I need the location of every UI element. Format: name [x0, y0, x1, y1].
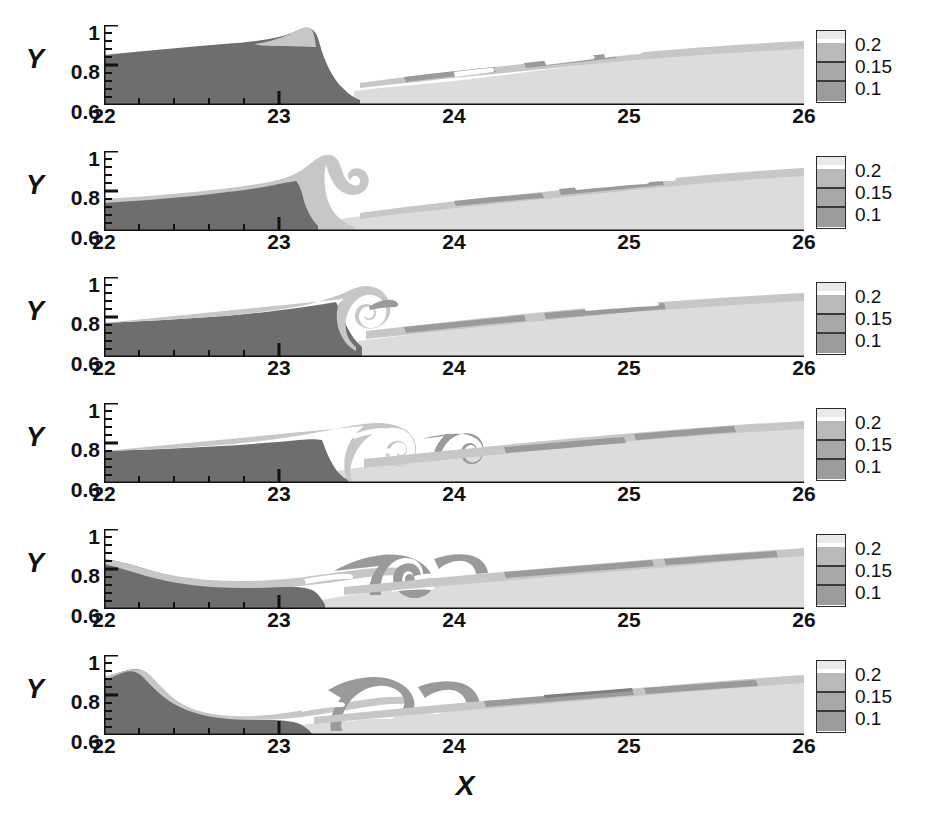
colorbar-label: 0.15 — [855, 309, 892, 328]
x-tick-label: 23 — [267, 105, 290, 126]
colorbar-label: 0.1 — [855, 709, 881, 728]
colorbar-label: 0.15 — [855, 183, 892, 202]
x-tick-label: 26 — [792, 483, 815, 504]
colorbar-labels: 0.2 0.15 0.1 — [855, 30, 925, 105]
colorbar-labels: 0.2 0.15 0.1 — [855, 534, 925, 609]
y-tick-label: 1 — [88, 526, 100, 547]
plot-area — [104, 403, 804, 483]
colorbar-label: 0.2 — [855, 539, 881, 558]
y-axis-title: Y — [26, 172, 44, 199]
panel-2: Y 1 0.8 0.6 — [0, 126, 930, 251]
y-tick-label: 1 — [88, 274, 100, 295]
y-axis-title: Y — [26, 298, 44, 325]
colorbar-label: 0.2 — [855, 287, 881, 306]
colorbar-label: 0.2 — [855, 35, 881, 54]
colorbar — [816, 30, 846, 103]
x-tick-label: 23 — [267, 609, 290, 630]
colorbar-label: 0.1 — [855, 79, 881, 98]
flow-field-3 — [104, 277, 804, 357]
x-tick-label: 25 — [617, 609, 640, 630]
y-tick-label: 1 — [88, 148, 100, 169]
x-tick-label: 23 — [267, 483, 290, 504]
plot-area — [104, 151, 804, 231]
x-tick-label: 26 — [792, 609, 815, 630]
colorbar-labels: 0.2 0.15 0.1 — [855, 156, 925, 231]
x-tick-label: 24 — [442, 483, 465, 504]
flow-field-6 — [104, 655, 804, 735]
x-tick-label: 22 — [92, 483, 115, 504]
y-axis-title: Y — [26, 550, 44, 577]
x-tick-label: 24 — [442, 609, 465, 630]
colorbar — [816, 156, 846, 229]
x-tick-labels: 22 23 24 25 26 — [0, 735, 930, 763]
x-tick-label: 25 — [617, 105, 640, 126]
y-tick-label: 0.8 — [71, 313, 100, 334]
colorbar-label: 0.1 — [855, 583, 881, 602]
colorbar-label: 0.15 — [855, 435, 892, 454]
x-tick-label: 25 — [617, 357, 640, 378]
x-tick-label: 22 — [92, 231, 115, 252]
plot-area — [104, 25, 804, 105]
x-tick-label: 25 — [617, 483, 640, 504]
y-tick-label: 1 — [88, 652, 100, 673]
x-tick-label: 22 — [92, 357, 115, 378]
colorbar-labels: 0.2 0.15 0.1 — [855, 660, 925, 735]
x-tick-label: 26 — [792, 105, 815, 126]
y-axis-title: Y — [26, 424, 44, 451]
panel-5: Y 1 0.8 0.6 — [0, 504, 930, 629]
x-tick-label: 24 — [442, 231, 465, 252]
colorbar-labels: 0.2 0.15 0.1 — [855, 282, 925, 357]
x-tick-label: 24 — [442, 357, 465, 378]
plot-area — [104, 277, 804, 357]
colorbar-label: 0.2 — [855, 413, 881, 432]
figure-wave-breaking-sequence: Y 1 0.8 0.6 — [0, 0, 930, 819]
x-tick-label: 22 — [92, 609, 115, 630]
x-tick-label: 24 — [442, 105, 465, 126]
colorbar-label: 0.2 — [855, 161, 881, 180]
flow-field-2 — [104, 151, 804, 231]
x-tick-label: 24 — [442, 735, 465, 756]
y-tick-label: 0.8 — [71, 61, 100, 82]
colorbar-labels: 0.2 0.15 0.1 — [855, 408, 925, 483]
colorbar-label: 0.1 — [855, 457, 881, 476]
colorbar-label: 0.1 — [855, 331, 881, 350]
x-tick-label: 22 — [92, 735, 115, 756]
y-axis-title: Y — [26, 46, 44, 73]
colorbar — [816, 660, 846, 733]
colorbar-label: 0.15 — [855, 57, 892, 76]
x-tick-label: 26 — [792, 735, 815, 756]
colorbar-label: 0.1 — [855, 205, 881, 224]
y-tick-label: 1 — [88, 400, 100, 421]
panel-4: Y 1 0.8 0.6 — [0, 378, 930, 503]
flow-field-1 — [104, 25, 804, 105]
x-tick-label: 26 — [792, 357, 815, 378]
x-tick-label: 25 — [617, 735, 640, 756]
panel-1: Y 1 0.8 0.6 — [0, 0, 930, 125]
colorbar — [816, 408, 846, 481]
x-tick-label: 25 — [617, 231, 640, 252]
y-tick-label: 0.8 — [71, 691, 100, 712]
x-tick-label: 23 — [267, 735, 290, 756]
colorbar-label: 0.15 — [855, 561, 892, 580]
colorbar-label: 0.15 — [855, 687, 892, 706]
y-tick-label: 0.8 — [71, 565, 100, 586]
plot-area — [104, 529, 804, 609]
y-tick-label: 0.8 — [71, 439, 100, 460]
x-tick-label: 22 — [92, 105, 115, 126]
y-tick-label: 1 — [88, 22, 100, 43]
y-axis-title: Y — [26, 676, 44, 703]
colorbar — [816, 534, 846, 607]
x-axis-title: X — [0, 770, 930, 802]
panel-3: Y 1 0.8 0.6 — [0, 252, 930, 377]
x-tick-label: 23 — [267, 357, 290, 378]
x-tick-label: 26 — [792, 231, 815, 252]
colorbar — [816, 282, 846, 355]
panel-6: Y 1 0.8 0.6 — [0, 630, 930, 755]
flow-field-5 — [104, 529, 804, 609]
plot-area — [104, 655, 804, 735]
colorbar-label: 0.2 — [855, 665, 881, 684]
flow-field-4 — [104, 403, 804, 483]
x-tick-label: 23 — [267, 231, 290, 252]
y-tick-label: 0.8 — [71, 187, 100, 208]
